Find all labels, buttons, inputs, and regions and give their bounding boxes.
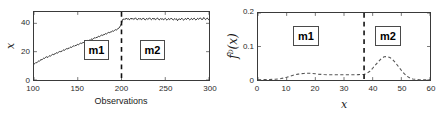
density-x-tick-4: 40 xyxy=(369,85,378,93)
panel-timeseries: Observations x m1 m2 1001502002503000204… xyxy=(0,0,219,115)
regime-label-m2-timeseries: m2 xyxy=(140,40,165,60)
density-y-tick-0: 0 xyxy=(231,77,254,85)
timeseries-axes xyxy=(33,11,210,81)
density-x-tick-1: 10 xyxy=(282,85,291,93)
density-y-tick-1: 0.1 xyxy=(231,43,254,51)
timeseries-y-tick-2: 40 xyxy=(7,19,30,27)
density-y-tick-2: 0.2 xyxy=(231,8,254,16)
density-xlabel: x xyxy=(341,99,347,110)
density-x-tick-5: 50 xyxy=(398,85,407,93)
density-x-tick-0: 0 xyxy=(255,85,259,93)
timeseries-x-tick-0: 100 xyxy=(26,85,39,93)
timeseries-y-tick-1: 20 xyxy=(7,48,30,56)
density-x-tick-2: 20 xyxy=(311,85,320,93)
regime-label-m1-density: m1 xyxy=(293,26,319,46)
density-plot-area xyxy=(258,13,430,80)
timeseries-xlabel: Observations xyxy=(94,97,147,106)
timeseries-x-tick-4: 300 xyxy=(203,85,216,93)
timeseries-x-tick-2: 200 xyxy=(115,85,128,93)
density-axes xyxy=(257,12,431,81)
timeseries-y-tick-0: 0 xyxy=(7,77,30,85)
panel-density: x fD(x) m1 m2 010203040506000.10.2 xyxy=(219,0,439,115)
figure-container: Observations x m1 m2 1001502002503000204… xyxy=(0,0,439,115)
density-x-tick-6: 60 xyxy=(427,85,436,93)
regime-label-m2-density: m2 xyxy=(375,26,401,46)
timeseries-x-tick-1: 150 xyxy=(71,85,84,93)
timeseries-x-tick-3: 250 xyxy=(159,85,172,93)
density-x-tick-3: 30 xyxy=(340,85,349,93)
regime-label-m1-timeseries: m1 xyxy=(84,40,109,60)
timeseries-plot-area xyxy=(34,12,209,80)
